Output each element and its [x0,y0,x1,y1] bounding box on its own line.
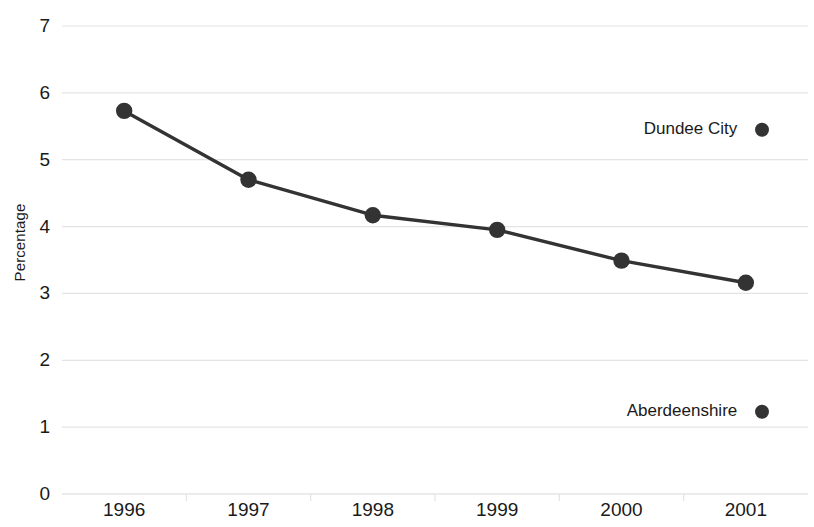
x-axis-tick-label: 1997 [189,500,309,519]
data-point[interactable] [240,172,256,188]
legend-item-aberdeenshire[interactable]: Aberdeenshire [627,401,769,422]
legend-label-aberdeenshire: Aberdeenshire [627,401,738,420]
x-axis-tick-label: 1998 [313,500,433,519]
data-point[interactable] [365,207,381,223]
data-point[interactable] [489,222,505,238]
x-axis-tick-label: 1996 [64,500,184,519]
x-axis-tick-label: 1999 [437,500,557,519]
data-point[interactable] [116,103,132,119]
plot-svg [62,26,808,494]
data-point[interactable] [613,252,629,268]
plot-area [62,26,808,494]
legend-marker-aberdeenshire [755,404,769,418]
data-point[interactable] [738,275,754,291]
line-chart: Percentage 01234567 19961997199819992000… [0,0,814,527]
gridlines [62,26,808,494]
legend-item-dundee-city[interactable]: Dundee City [644,119,769,140]
x-axis-tick-label: 2001 [686,500,806,519]
x-axis-tick-label: 2000 [562,500,682,519]
legend-label-dundee-city: Dundee City [644,119,738,138]
legend-marker-dundee-city [755,122,769,136]
